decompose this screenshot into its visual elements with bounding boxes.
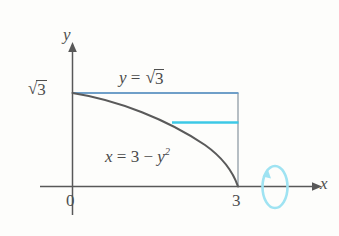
- y-axis: [68, 42, 77, 215]
- origin-tick-label: 0: [66, 192, 75, 209]
- equation-label-curve: x = 3 − y2: [105, 148, 170, 165]
- y-tick-label-sqrt3: √3: [27, 79, 47, 97]
- curve-equation-equals: =: [117, 147, 127, 166]
- curve-equation-variable: y: [157, 147, 165, 166]
- x-axis: [40, 182, 322, 191]
- curve-equation-minus: −: [143, 147, 153, 166]
- radical-group: √3: [27, 79, 47, 97]
- figure-canvas: y x 0 3 √3 y = √3 x = 3 − y2: [0, 0, 339, 236]
- figure-graphics: [0, 0, 339, 236]
- top-equation-equals: =: [131, 68, 141, 87]
- curve-equation-exponent: 2: [165, 146, 170, 157]
- x-tick-label-3: 3: [232, 192, 241, 209]
- curve-equation-constant: 3: [131, 147, 140, 166]
- curve-equation-lhs: x: [105, 147, 113, 166]
- top-equation-radical: √3: [145, 68, 165, 86]
- x-axis-label: x: [320, 175, 328, 192]
- equation-label-top-boundary: y = √3: [119, 68, 164, 86]
- top-equation-lhs: y: [119, 68, 127, 87]
- top-radicand: 3: [154, 69, 165, 87]
- radicand: 3: [36, 80, 47, 98]
- y-axis-label: y: [63, 26, 71, 43]
- parabola-curve: [73, 93, 239, 187]
